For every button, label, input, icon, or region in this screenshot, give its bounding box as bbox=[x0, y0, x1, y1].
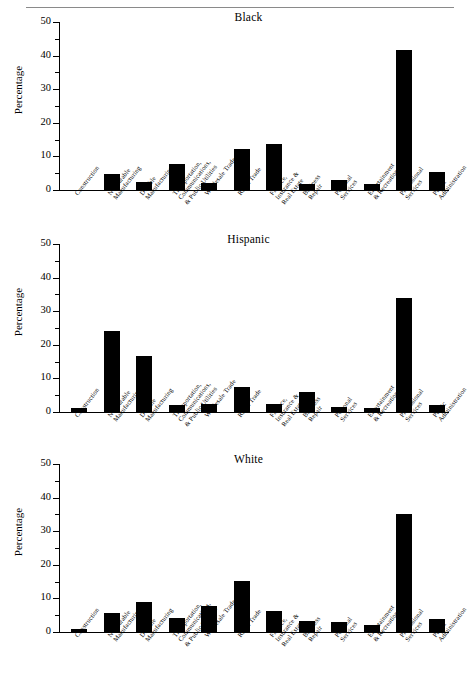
y-axis-label-hispanic: Percentage bbox=[12, 262, 24, 362]
y-tick-label: 0 bbox=[46, 625, 51, 636]
y-tick-label: 50 bbox=[41, 237, 52, 248]
y-tick-label: 40 bbox=[41, 49, 52, 60]
y-tick-label: 30 bbox=[41, 82, 52, 93]
chart-panel-black: Black Percentage 01020304050 Constructio… bbox=[0, 10, 461, 238]
y-axis-label-black: Percentage bbox=[12, 40, 24, 140]
y-tick-mark bbox=[53, 632, 59, 633]
y-tick-label: 0 bbox=[46, 183, 51, 194]
y-tick-label: 0 bbox=[46, 405, 51, 416]
y-tick-label: 10 bbox=[41, 591, 52, 602]
y-tick-label: 20 bbox=[41, 116, 52, 127]
y-tick-label: 10 bbox=[41, 149, 52, 160]
y-tick-label: 20 bbox=[41, 558, 52, 569]
y-tick-label: 50 bbox=[41, 15, 52, 26]
y-tick-label: 30 bbox=[41, 304, 52, 315]
x-axis-labels-white: ConstructionNondurableManufacturingDurab… bbox=[59, 634, 459, 684]
y-tick-label: 20 bbox=[41, 338, 52, 349]
chart-panel-white: White Percentage 01020304050 Constructio… bbox=[0, 452, 461, 680]
y-tick-label: 10 bbox=[41, 371, 52, 382]
y-axis-label-white: Percentage bbox=[12, 482, 24, 582]
header-rule bbox=[26, 7, 454, 8]
y-tick-label: 30 bbox=[41, 524, 52, 535]
chart-panel-hispanic: Hispanic Percentage 01020304050 Construc… bbox=[0, 232, 461, 460]
y-tick-label: 40 bbox=[41, 491, 52, 502]
y-tick-mark bbox=[53, 412, 59, 413]
y-tick-label: 50 bbox=[41, 457, 52, 468]
y-tick-mark bbox=[53, 190, 59, 191]
y-tick-label: 40 bbox=[41, 271, 52, 282]
